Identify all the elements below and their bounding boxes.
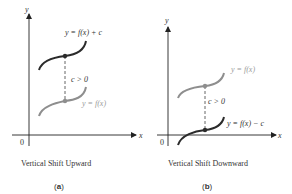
shifted-curve-label: y = f(x) + c [64, 28, 102, 37]
original-curve [178, 73, 224, 98]
origin-label: 0 [160, 138, 164, 147]
panel-b: y x 0 y = f(x) c > 0 y = f(x) − c Vertic… [157, 16, 282, 191]
caption-a: Vertical Shift Upward [21, 159, 91, 168]
vertical-shift-diagram: y x 0 y = f(x) + c c > 0 y = f(x) Vertic… [0, 0, 292, 194]
shifted-point [203, 128, 207, 132]
y-axis-label: y [164, 16, 169, 25]
original-point [63, 99, 67, 103]
original-curve-label: y = f(x) [230, 65, 255, 74]
shifted-curve-up [39, 41, 86, 70]
shift-amount-label: c > 0 [71, 75, 88, 84]
x-axis-label: x [138, 131, 143, 140]
caption-b: Vertical Shift Downward [168, 159, 248, 168]
x-axis-label: x [277, 131, 282, 140]
panel-letter-b: (b) [202, 182, 213, 191]
shift-amount-label: c > 0 [208, 97, 225, 106]
panel-letter-a: (a) [54, 182, 64, 191]
original-curve [39, 87, 86, 116]
shifted-point [63, 54, 67, 58]
original-point [203, 84, 207, 88]
original-curve-label: y = f(x) [81, 99, 106, 108]
panel-a: y x 0 y = f(x) + c c > 0 y = f(x) Vertic… [12, 5, 143, 191]
origin-label: 0 [20, 138, 24, 147]
shifted-curve-down [178, 117, 224, 145]
shifted-curve-label: y = f(x) − c [226, 119, 264, 128]
y-axis-label: y [24, 5, 29, 14]
